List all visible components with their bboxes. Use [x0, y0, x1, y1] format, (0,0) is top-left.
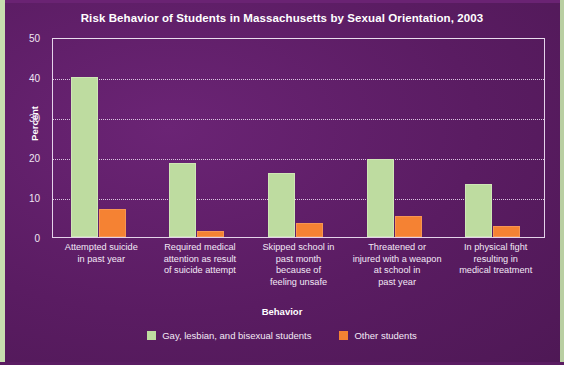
y-axis-tick-labels: 01020304050: [0, 38, 46, 238]
x-category-label-line: In physical fight: [441, 242, 550, 254]
bar-group: [152, 39, 251, 237]
x-category-label-line: Skipped school in: [244, 242, 353, 254]
legend-swatch-green: [147, 331, 156, 340]
y-tick-label: 40: [29, 73, 40, 84]
bar-other-students: [296, 223, 323, 237]
bar-group: [447, 39, 546, 237]
x-category-label: Skipped school inpast monthbecause offee…: [244, 242, 353, 288]
legend: Gay, lesbian, and bisexual studentsOther…: [0, 330, 564, 341]
x-category-label-line: Required medical: [146, 242, 255, 254]
x-category-label: Threatened orinjured with a weaponat sch…: [343, 242, 452, 288]
x-category-label-line: past month: [244, 254, 353, 266]
x-category-label-line: Attempted suicide: [47, 242, 156, 254]
y-tick-label: 30: [29, 113, 40, 124]
y-tick-label: 0: [34, 233, 40, 244]
chart-figure: Risk Behavior of Students in Massachuset…: [0, 0, 564, 365]
legend-item[interactable]: Gay, lesbian, and bisexual students: [147, 330, 311, 341]
x-category-label-line: Threatened or: [343, 242, 452, 254]
bar-group: [250, 39, 349, 237]
x-category-label-line: resulting in: [441, 254, 550, 266]
legend-title: Behavior: [0, 306, 564, 317]
x-category-label: Attempted suicidein past year: [47, 242, 156, 265]
bar-series-container: [53, 39, 544, 237]
chart-title: Risk Behavior of Students in Massachuset…: [0, 12, 564, 24]
x-category-label-line: because of: [244, 265, 353, 277]
legend-swatch-orange: [339, 331, 348, 340]
x-category-label-line: medical treatment: [441, 265, 550, 277]
y-tick-label: 50: [29, 33, 40, 44]
y-tick-label: 10: [29, 193, 40, 204]
bar-other-students: [395, 216, 422, 237]
x-category-label-line: injured with a weapon: [343, 254, 452, 266]
legend-item-label: Gay, lesbian, and bisexual students: [162, 330, 311, 341]
x-category-label-line: feeling unsafe: [244, 277, 353, 289]
bar-gay-lesbian-bisexual: [268, 173, 295, 237]
bar-group: [349, 39, 448, 237]
bar-gay-lesbian-bisexual: [169, 163, 196, 237]
figure-top-edge: [0, 0, 564, 3]
y-tick-label: 20: [29, 153, 40, 164]
bar-gay-lesbian-bisexual: [71, 77, 98, 237]
bar-other-students: [493, 226, 520, 237]
bar-group: [53, 39, 152, 237]
legend-item-label: Other students: [354, 330, 416, 341]
x-category-label: Required medicalattention as resultof su…: [146, 242, 255, 277]
x-axis-category-labels: Attempted suicidein past yearRequired me…: [52, 242, 545, 304]
legend-item[interactable]: Other students: [339, 330, 416, 341]
plot-area: [52, 38, 545, 238]
x-category-label-line: at school in: [343, 265, 452, 277]
x-category-label-line: in past year: [47, 254, 156, 266]
bar-gay-lesbian-bisexual: [367, 159, 394, 237]
bar-other-students: [99, 209, 126, 237]
bar-other-students: [197, 231, 224, 237]
x-category-label-line: of suicide attempt: [146, 265, 255, 277]
x-category-label-line: attention as result: [146, 254, 255, 266]
x-category-label-line: past year: [343, 277, 452, 289]
x-category-label: In physical fightresulting inmedical tre…: [441, 242, 550, 277]
bar-gay-lesbian-bisexual: [465, 184, 492, 237]
